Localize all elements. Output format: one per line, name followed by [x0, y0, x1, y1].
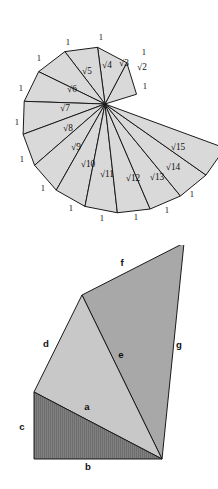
side-label-b: b: [85, 461, 91, 472]
unit-leg-label: 1: [20, 154, 24, 164]
unit-leg-label: 1: [142, 47, 146, 57]
unit-leg-label: 1: [19, 83, 23, 93]
side-label-f: f: [120, 257, 124, 268]
hypotenuse-label-sqrt-14: √14: [166, 162, 181, 172]
hypotenuse-label-sqrt-3: √3: [119, 58, 129, 68]
unit-leg-label: 1: [69, 203, 73, 213]
unit-leg-label: 1: [190, 189, 194, 199]
hypotenuse-label-sqrt-13: √13: [150, 172, 165, 182]
hypotenuse-label-sqrt-4: √4: [102, 60, 112, 70]
spiral-of-theodorus-panel: √2√3√4√5√6√7√8√9√10√11√12√13√14√15111111…: [0, 0, 218, 245]
unit-leg-label: 1: [66, 37, 70, 47]
unit-leg-label: 1: [99, 32, 103, 42]
side-label-g: g: [176, 339, 182, 350]
hypotenuse-label-sqrt-8: √8: [63, 123, 73, 133]
unit-leg-label: 1: [134, 212, 138, 222]
unit-leg-label: 1: [37, 53, 41, 63]
side-label-e: e: [118, 349, 123, 360]
hypotenuse-label-sqrt-9: √9: [71, 142, 81, 152]
spiral-figure: √2√3√4√5√6√7√8√9√10√11√12√13√14√15111111…: [0, 0, 218, 245]
unit-leg-label: 1: [100, 213, 104, 223]
side-label-d: d: [43, 338, 49, 349]
hypotenuse-label-sqrt-5: √5: [82, 66, 92, 76]
hypotenuse-label-sqrt-10: √10: [81, 159, 96, 169]
hypotenuse-label-sqrt-2: √2: [137, 62, 147, 72]
unit-leg-label: 1: [41, 183, 45, 193]
hypotenuse-label-sqrt-7: √7: [60, 103, 70, 113]
figure-sheet: √2√3√4√5√6√7√8√9√10√11√12√13√14√15111111…: [0, 0, 218, 489]
side-label-c: c: [19, 421, 25, 432]
hypotenuse-label-sqrt-15: √15: [171, 142, 186, 152]
side-label-a: a: [84, 401, 90, 412]
unit-leg-label: 1: [165, 205, 169, 215]
hypotenuse-label-sqrt-6: √6: [67, 84, 77, 94]
unit-leg-label: 1: [143, 81, 147, 91]
unit-leg-label: 1: [15, 117, 19, 127]
hypotenuse-label-sqrt-11: √11: [100, 169, 114, 179]
hypotenuse-label-sqrt-12: √12: [126, 173, 141, 183]
triangle-figure: fdegacb: [0, 245, 218, 489]
triangle-decomposition-panel: fdegacb: [0, 245, 218, 489]
